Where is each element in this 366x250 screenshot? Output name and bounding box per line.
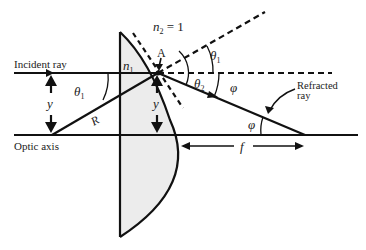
n2-label: n2 = 1	[153, 19, 184, 36]
phi-top-label: φ	[230, 80, 237, 95]
phi-top-arc	[214, 73, 219, 97]
refracted-label-arrow-icon	[265, 106, 274, 114]
y-left-arrow-up-icon	[45, 75, 57, 86]
y-right-label: y	[151, 96, 159, 111]
theta2-label: θ2	[194, 76, 204, 93]
phi-bottom-arc	[261, 117, 263, 135]
radius-label: R	[87, 112, 102, 129]
incident-ray-arrow-icon	[46, 69, 54, 77]
y-left-arrow-down-icon	[45, 122, 57, 133]
refracted-label-pointer	[270, 89, 295, 110]
theta1-left-label: θ1	[74, 84, 84, 101]
refracted-ray-label-2: ray	[297, 90, 311, 101]
theta1-left-arc	[103, 73, 108, 100]
y-left-label: y	[45, 96, 53, 111]
phi-bottom-label: φ	[248, 117, 255, 132]
focal-length-label: f	[240, 139, 246, 154]
plano-convex-lens-diagram: Incident ray Optic axis Refracted ray n2…	[0, 0, 366, 250]
incident-ray-label: Incident ray	[14, 58, 67, 70]
theta1-right-label: θ1	[210, 48, 220, 65]
point-A-label: A	[157, 46, 166, 60]
f-arrow-right-icon	[295, 142, 304, 150]
f-arrow-left-icon	[181, 142, 190, 150]
optic-axis-label: Optic axis	[14, 140, 59, 152]
point-A-dot	[156, 71, 161, 76]
